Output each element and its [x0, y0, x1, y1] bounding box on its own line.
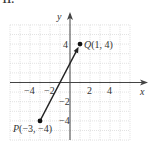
x-tick-label: −4 — [24, 85, 35, 96]
y-tick-label: −2 — [59, 96, 70, 107]
x-tick-label: −2 — [44, 85, 55, 96]
y-tick-label: 4 — [63, 39, 68, 50]
x-tick-label: 2 — [87, 85, 92, 96]
point-label-q: Q(1, 4) — [84, 39, 113, 51]
coordinate-plane: −4−2244−2−4 y x P(−3, −4)Q(1, 4) — [0, 0, 154, 147]
x-tick-label: 4 — [107, 85, 112, 96]
x-axis-label: x — [139, 86, 145, 97]
point-q — [78, 42, 83, 47]
point-label-p: P(−3, −4) — [12, 123, 52, 135]
y-axis-label: y — [56, 11, 62, 22]
y-tick-label: −4 — [59, 115, 70, 126]
